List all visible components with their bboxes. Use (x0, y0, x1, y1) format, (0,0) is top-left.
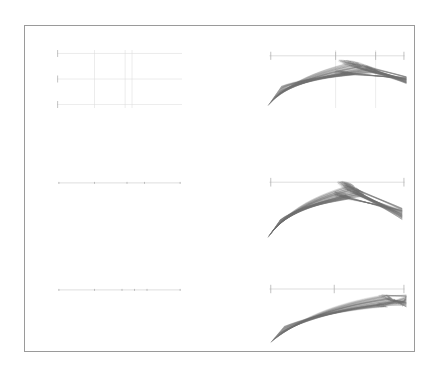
panel-row2-col2-canvas (268, 176, 406, 238)
bundle-curve (269, 183, 402, 236)
bundle-curve (272, 186, 402, 232)
panel-row1-col1-canvas (57, 50, 182, 108)
bundle-curve (270, 62, 406, 102)
panel-row3-col2-canvas (268, 283, 406, 343)
bundle-curve (268, 181, 402, 237)
bundle-curve (273, 65, 406, 98)
bundle-curve (269, 182, 402, 236)
curve-bundle (271, 295, 406, 343)
bundle-curve (270, 62, 406, 104)
bundle-curve (273, 295, 406, 340)
bundle-curve (271, 62, 406, 101)
panel-row3-col1 (57, 285, 182, 299)
panel-row3-col1-canvas (57, 285, 182, 299)
bundle-curve (270, 62, 406, 104)
bundle-curve (271, 184, 402, 233)
panel-row3-col2 (268, 283, 406, 343)
panel-row2-col2 (268, 176, 406, 238)
curve-bundle (268, 60, 406, 106)
panel-row2-col1-canvas (57, 178, 182, 192)
panel-row1-col2 (268, 50, 406, 108)
curve-bundle (268, 181, 402, 237)
bundle-curve (269, 182, 402, 236)
panel-row1-col2-canvas (268, 50, 406, 108)
bundle-curve (268, 181, 402, 237)
figure-root (0, 0, 436, 373)
panel-row1-col1 (57, 50, 182, 108)
bundle-curve (271, 185, 402, 233)
panel-row2-col1 (57, 178, 182, 192)
